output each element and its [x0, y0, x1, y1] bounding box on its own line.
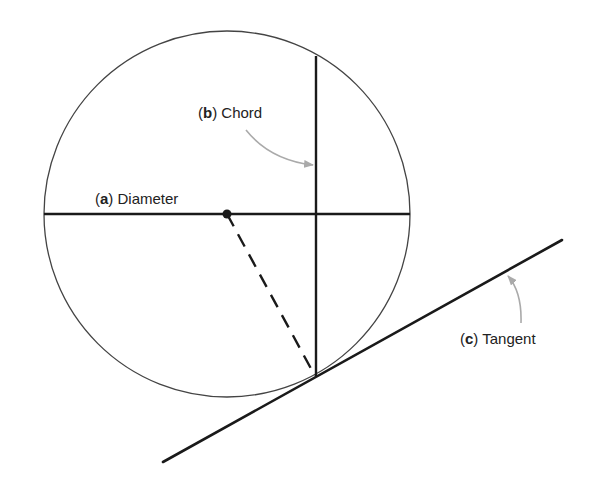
tangent-label: (c) Tangent: [460, 330, 536, 347]
chord-letter: b: [203, 104, 212, 121]
diagram-canvas: [0, 0, 599, 481]
tangent-letter: c: [465, 330, 473, 347]
chord-label: (b) Chord: [198, 104, 262, 121]
tangent-line: [163, 240, 562, 462]
center-point: [223, 210, 232, 219]
diameter-label: (a) Diameter: [95, 190, 178, 207]
tangent-arrow: [508, 276, 521, 323]
diameter-text: Diameter: [118, 190, 179, 207]
diameter-letter: a: [100, 190, 108, 207]
chord-text: Chord: [221, 104, 262, 121]
circle-parts-diagram: (a) Diameter (b) Chord (c) Tangent: [0, 0, 599, 481]
chord-arrow: [246, 130, 313, 165]
tangent-text: Tangent: [482, 330, 535, 347]
radius-dashed-line: [227, 214, 315, 376]
